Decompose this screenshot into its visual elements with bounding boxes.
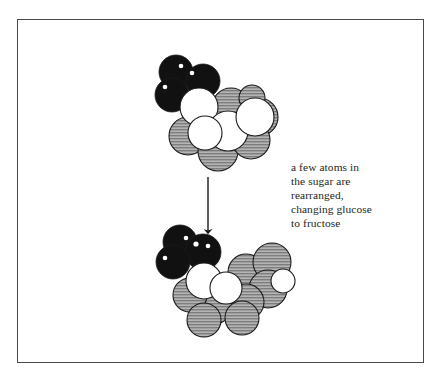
atom-gray xyxy=(225,301,259,335)
caption-text: a few atoms in the sugar are rearranged,… xyxy=(291,160,403,230)
atom-black xyxy=(156,245,190,279)
atom-white xyxy=(210,272,242,304)
caption-line-2: the sugar are xyxy=(291,174,403,188)
glucose-molecule xyxy=(155,55,278,171)
atom-highlight xyxy=(184,236,189,241)
atom-highlight xyxy=(190,71,195,76)
atom-white xyxy=(271,269,295,293)
caption-line-1: a few atoms in xyxy=(291,160,403,174)
caption-line-3: rearranged, xyxy=(291,188,403,202)
caption-line-5: to fructose xyxy=(291,216,403,230)
atom-highlight xyxy=(179,64,184,69)
atom-highlight xyxy=(193,241,198,246)
caption-line-4: changing glucose xyxy=(291,202,403,216)
figure-root: a few atoms in the sugar are rearranged,… xyxy=(0,0,439,385)
atom-highlight xyxy=(206,244,211,249)
atom-gray xyxy=(187,303,221,337)
atom-white xyxy=(236,98,274,136)
atom-highlight xyxy=(163,256,168,261)
atom-highlight xyxy=(163,85,168,90)
fructose-molecule xyxy=(156,225,295,337)
atom-white xyxy=(188,116,222,150)
